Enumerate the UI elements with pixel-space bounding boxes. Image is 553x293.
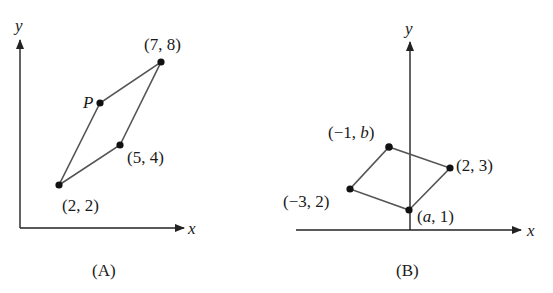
point-2-2 — [55, 181, 62, 188]
point-neg1-b — [385, 143, 393, 151]
panel-a: y x (2, 2) (5, 4) (7, 8) P (A) — [13, 16, 196, 280]
label-a-1: (a, 1) — [417, 207, 454, 226]
point-p — [96, 99, 103, 106]
point-5-4 — [116, 141, 123, 148]
caption-a: (A) — [92, 261, 116, 280]
panel-b: y x (a, 1) (2, 3) (−1, b) (−3, 2) (B) — [283, 19, 535, 280]
x-axis-label-b: x — [526, 221, 535, 240]
label-p: P — [82, 93, 93, 112]
y-axis-label-a: y — [13, 16, 23, 35]
parallelogram-b — [350, 147, 450, 210]
label-neg1-b: (−1, b) — [328, 123, 374, 142]
label-7-8: (7, 8) — [144, 35, 181, 54]
point-neg3-2 — [346, 185, 353, 192]
diagram-canvas: y x (2, 2) (5, 4) (7, 8) P (A) y x (a, 1… — [0, 0, 553, 293]
y-axis-label-b: y — [403, 19, 413, 38]
label-neg3-2: (−3, 2) — [283, 192, 329, 211]
point-a-1 — [405, 206, 412, 213]
point-2-3 — [446, 164, 453, 171]
label-2-3: (2, 3) — [456, 156, 493, 175]
caption-b: (B) — [396, 261, 419, 280]
label-5-4: (5, 4) — [127, 148, 164, 167]
x-axis-label-a: x — [187, 219, 196, 238]
point-7-8 — [157, 58, 164, 65]
label-2-2: (2, 2) — [62, 196, 99, 215]
